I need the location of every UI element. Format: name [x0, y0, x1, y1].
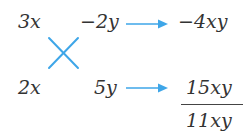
- left-bottom-term: 2x: [18, 78, 41, 97]
- arrow-right-icon: [126, 20, 168, 29]
- left-top-term: 3x: [18, 12, 41, 31]
- arrow-right-icon: [126, 84, 168, 93]
- middle-top-term: −2y: [80, 12, 119, 31]
- fraction-line: [181, 104, 243, 105]
- cross-x-icon: [49, 38, 78, 68]
- result-sum-term: 11xy: [186, 111, 232, 130]
- result-top-term: −4xy: [178, 12, 227, 31]
- result-bottom-numerator: 15xy: [186, 78, 232, 97]
- middle-bottom-term: 5y: [94, 78, 117, 97]
